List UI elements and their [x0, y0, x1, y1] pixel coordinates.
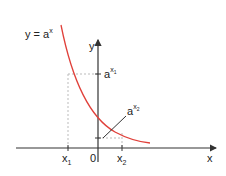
guide-lines — [68, 74, 122, 148]
exponential-graph: y = ax y x 0 x1 x2 ax1 ax2 — [0, 0, 226, 176]
x-axis-label: x — [207, 152, 213, 164]
ax2-leader-line — [103, 116, 126, 138]
ax2-label: ax2 — [127, 103, 140, 117]
x2-label: x2 — [117, 152, 127, 166]
x1-label: x1 — [62, 152, 72, 166]
exponential-curve — [61, 25, 150, 143]
function-label: y = ax — [25, 27, 53, 40]
ax1-label: ax1 — [104, 66, 117, 80]
origin-label: 0 — [90, 152, 96, 164]
y-axis-label: y — [89, 40, 95, 52]
